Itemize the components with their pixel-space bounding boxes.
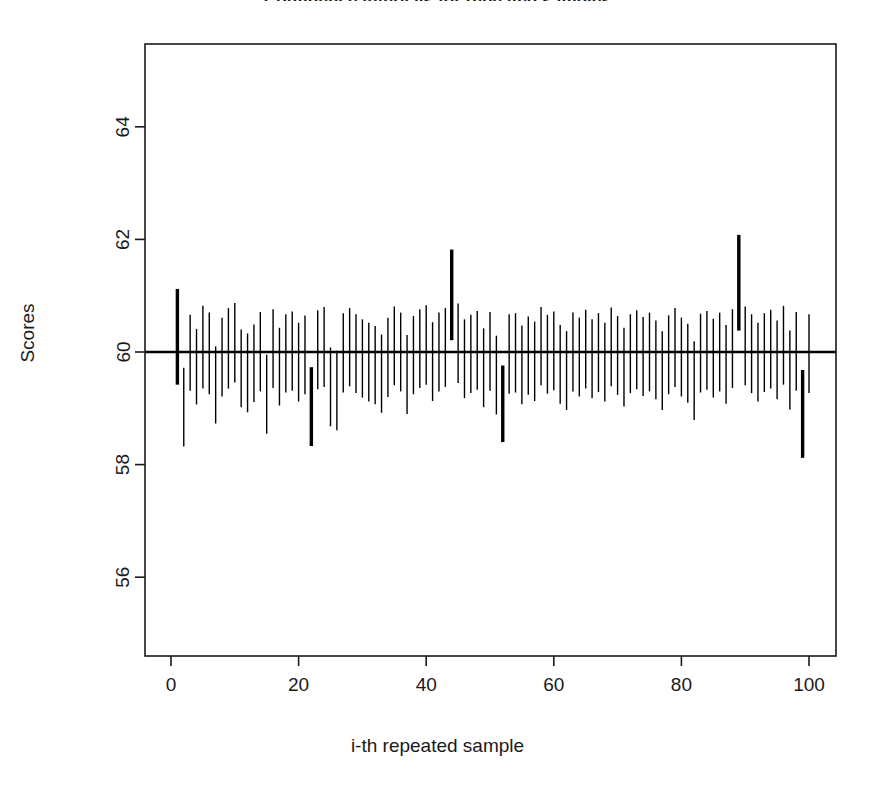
y-tick-label: 62 — [113, 229, 134, 250]
y-tick-label: 56 — [113, 567, 134, 588]
x-tick-label: 100 — [793, 674, 825, 695]
y-axis: 5658606264 — [113, 116, 146, 588]
plot-canvas: 020406080100 5658606264 — [0, 0, 875, 804]
x-tick-label: 20 — [288, 674, 309, 695]
chart-figure: Confidence intervals for repeated sample… — [0, 0, 875, 804]
x-tick-label: 60 — [543, 674, 564, 695]
x-tick-label: 40 — [416, 674, 437, 695]
y-axis-label: Scores — [17, 243, 39, 423]
x-axis: 020406080100 — [166, 656, 825, 695]
x-axis-label: i-th repeated sample — [0, 735, 875, 757]
interval-series — [177, 235, 809, 458]
x-tick-label: 0 — [166, 674, 177, 695]
y-tick-label: 60 — [113, 341, 134, 362]
y-tick-label: 58 — [113, 454, 134, 475]
y-tick-label: 64 — [113, 116, 134, 138]
x-tick-label: 80 — [671, 674, 692, 695]
